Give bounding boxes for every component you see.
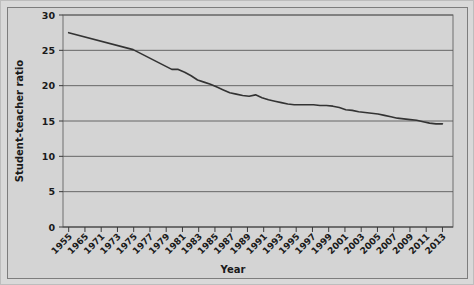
y-axis-tick-label: 15 (42, 116, 55, 127)
x-axis-ticks (63, 227, 453, 232)
x-axis-tick-labels: 1955196519711973197519771979198119831985… (49, 231, 448, 256)
y-axis-tick-label: 10 (42, 151, 56, 162)
y-axis-tick-label: 30 (42, 10, 56, 21)
line-chart: 051015202530 195519651971197319751977197… (1, 1, 474, 285)
y-axis-tick-label: 0 (48, 222, 55, 233)
chart-figure: 051015202530 195519651971197319751977197… (0, 0, 474, 285)
x-axis-title: Year (220, 264, 246, 275)
y-axis-tick-labels: 051015202530 (42, 10, 56, 233)
y-axis-tick-label: 5 (48, 186, 55, 197)
y-axis-ticks (59, 15, 63, 227)
y-axis-tick-label: 20 (42, 80, 56, 91)
y-axis-tick-label: 25 (42, 45, 55, 56)
y-axis-title: Student-teacher ratio (14, 60, 25, 183)
